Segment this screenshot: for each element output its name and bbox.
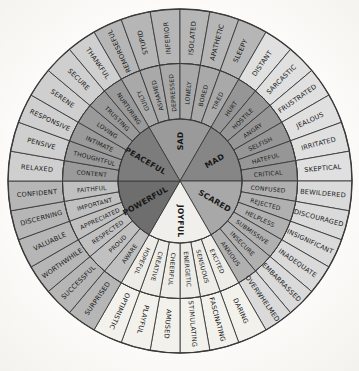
- label-sad: SAD: [176, 131, 185, 150]
- feeling-wheel-figure: SADGUILTYASHAMEDDEPRESSEDLONELYBOREDTIRE…: [0, 0, 359, 371]
- feeling-wheel: SADGUILTYASHAMEDDEPRESSEDLONELYBOREDTIRE…: [0, 0, 359, 371]
- label-joyful: JOYFUL: [176, 204, 185, 238]
